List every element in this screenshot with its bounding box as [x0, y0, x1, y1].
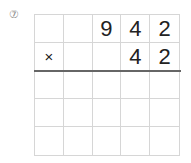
answer-cell[interactable] — [93, 127, 122, 155]
result-divider-line — [34, 70, 181, 72]
answer-cell[interactable] — [35, 127, 64, 155]
answer-cell[interactable] — [64, 99, 93, 127]
digit-cell: 4 — [121, 15, 150, 43]
answer-cell[interactable] — [35, 71, 64, 99]
answer-cell[interactable] — [121, 71, 150, 99]
answer-cell[interactable] — [150, 99, 179, 127]
answer-cell[interactable] — [35, 99, 64, 127]
digit-cell — [64, 43, 93, 71]
answer-cell[interactable] — [121, 99, 150, 127]
answer-cell[interactable] — [64, 127, 93, 155]
answer-cell[interactable] — [150, 71, 179, 99]
answer-cell[interactable] — [93, 71, 122, 99]
digit-cell — [93, 43, 122, 71]
digit-cell: 9 — [93, 15, 122, 43]
digit-cell: 2 — [150, 43, 179, 71]
digit-cell: 4 — [121, 43, 150, 71]
digit-cell: 2 — [150, 15, 179, 43]
digit-cell — [35, 15, 64, 43]
answer-cell[interactable] — [64, 71, 93, 99]
answer-cell[interactable] — [93, 99, 122, 127]
digit-cell — [64, 15, 93, 43]
problem-number: ⑦ — [9, 9, 19, 20]
multiply-sign: × — [35, 43, 64, 71]
answer-cell[interactable] — [150, 127, 179, 155]
answer-cell[interactable] — [121, 127, 150, 155]
multiplication-grid: 942×42 — [34, 14, 180, 156]
